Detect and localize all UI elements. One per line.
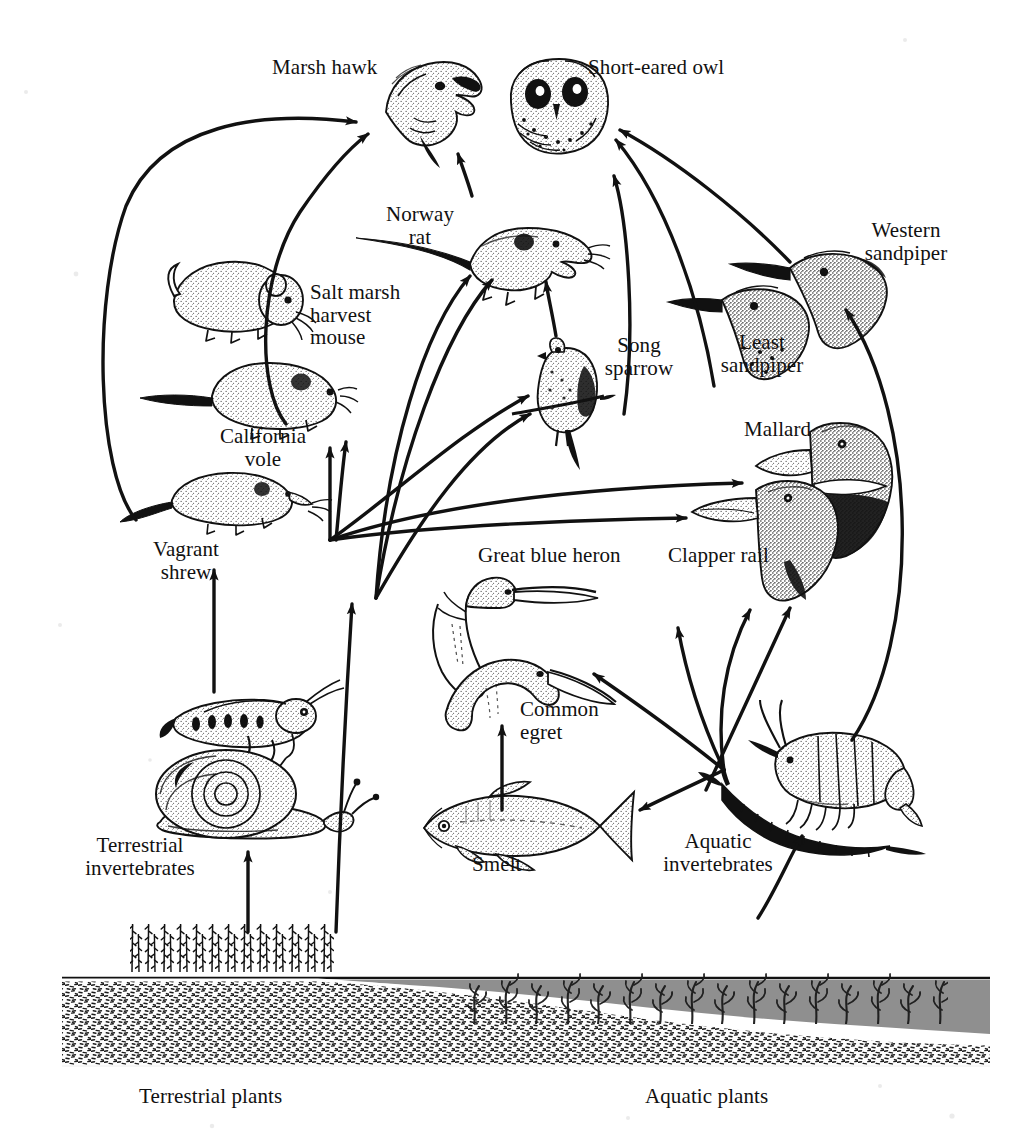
label-smelt: Smelt xyxy=(472,853,522,876)
arrow-aquatic-invertebrates-to-least-sandpiper xyxy=(678,628,724,770)
arrow-norway-rat-to-marsh-hawk xyxy=(458,154,472,196)
label-great-blue-heron: Great blue heron xyxy=(478,544,621,567)
arrow-hub-to-california-vole-b xyxy=(336,442,346,540)
fish-icon xyxy=(424,782,634,871)
label-aquatic-invertebrates: Aquatic invertebrates xyxy=(628,830,808,875)
label-song-sparrow: Song sparrow xyxy=(592,334,686,379)
label-terrestrial-invertebrates: Terrestrial invertebrates xyxy=(50,834,230,879)
label-california-vole: California vole xyxy=(198,425,328,470)
arrow-terrestrial-plants-to-norway-rat xyxy=(336,604,352,932)
label-western-sandpiper: Western sandpiper xyxy=(838,219,974,264)
label-short-eared-owl: Short-eared owl xyxy=(588,56,724,79)
seaweed-icon xyxy=(468,968,948,1030)
food-web-figure: Marsh hawk Short-eared owl Norway rat Sa… xyxy=(0,0,1009,1147)
arrow-western-sandpiper-to-short-eared-owl xyxy=(620,130,790,262)
habitat-cross-section xyxy=(62,924,990,1066)
rail-head-icon xyxy=(692,481,838,601)
shrew-icon xyxy=(120,473,332,535)
label-marsh-hawk: Marsh hawk xyxy=(272,56,377,79)
label-least-sandpiper: Least sandpiper xyxy=(700,331,824,376)
label-clapper-rail: Clapper rail xyxy=(668,544,769,567)
arrow-hub-to-song-sparrow-b xyxy=(330,396,528,540)
label-vagrant-shrew: Vagrant shrew xyxy=(128,538,244,583)
hawk-head-icon xyxy=(386,62,482,168)
label-salt-marsh-harvest-mouse: Salt marsh harvest mouse xyxy=(310,281,400,349)
label-aquatic-plants: Aquatic plants xyxy=(645,1085,768,1108)
arrow-song-sparrow-to-norway-rat xyxy=(546,282,556,336)
label-norway-rat: Norway rat xyxy=(372,203,468,248)
marsh-grass-icon xyxy=(130,924,334,978)
snail-icon xyxy=(156,750,379,839)
label-terrestrial-plants: Terrestrial plants xyxy=(139,1085,282,1108)
mouse-icon xyxy=(168,262,316,343)
label-mallard: Mallard xyxy=(744,418,811,441)
label-common-egret: Common egret xyxy=(520,698,599,743)
shrimp-icon xyxy=(748,700,922,830)
